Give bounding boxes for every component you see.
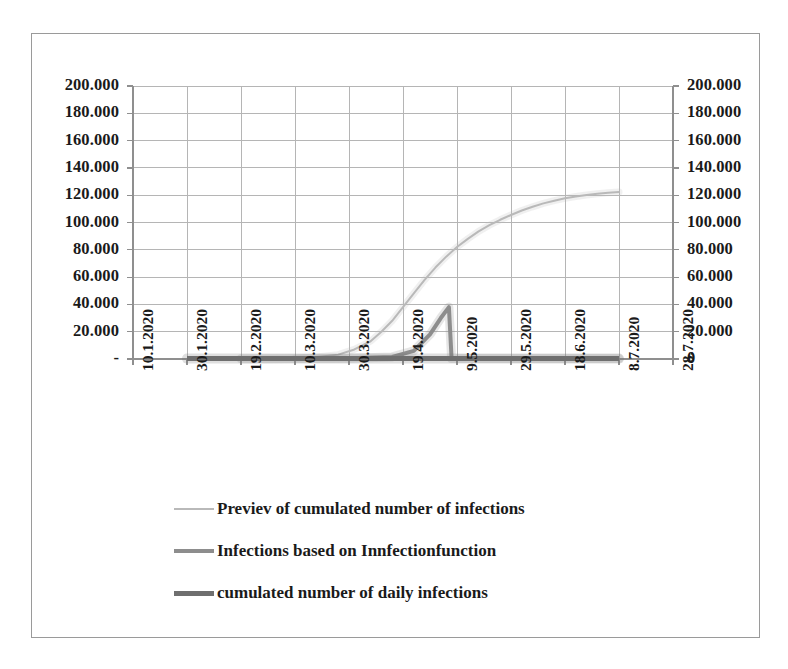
y-axis-left-tick-label: 20.000 <box>27 321 119 341</box>
y-axis-right-tick-label: 60.000 <box>687 266 779 286</box>
plot-area-wrapper: 200.000180.000160.000140.000120.000100.0… <box>32 34 761 639</box>
y-axis-left-tick-label: 140.000 <box>27 157 119 177</box>
y-axis-left-tick-label: 120.000 <box>27 184 119 204</box>
chart-legend: Previev of cumulated number of infection… <box>172 488 642 614</box>
legend-swatch-icon <box>172 549 216 553</box>
legend-item[interactable]: Infections based on Innfectionfunction <box>172 530 642 572</box>
y-axis-right-tick-label: 100.000 <box>687 212 779 232</box>
y-axis-right-tick-label: 20.000 <box>687 321 779 341</box>
legend-item-label: cumulated number of daily infections <box>216 583 488 603</box>
y-axis-left-tick-label: 180.000 <box>27 102 119 122</box>
y-axis-right-tick-label: 120.000 <box>687 184 779 204</box>
series-line-2 <box>241 307 619 359</box>
y-axis-left-tick-label: 100.000 <box>27 212 119 232</box>
legend-swatch-icon <box>172 508 216 510</box>
y-axis-left-tick-label: 80.000 <box>27 239 119 259</box>
legend-item-label: Previev of cumulated number of infection… <box>216 499 525 519</box>
y-axis-right-tick-label: 180.000 <box>687 102 779 122</box>
y-axis-right-tick-label: 40.000 <box>687 293 779 313</box>
legend-swatch-icon <box>172 591 216 596</box>
y-axis-left-tick-label: - <box>27 348 119 368</box>
y-axis-left-tick-label: 60.000 <box>27 266 119 286</box>
x-axis-tick-label: 9.5.2020 <box>463 317 481 371</box>
legend-item-label: Infections based on Innfectionfunction <box>216 541 496 561</box>
x-axis-tick-label: 28.7.2020 <box>679 309 697 371</box>
y-axis-right-tick-label: 160.000 <box>687 130 779 150</box>
x-axis-tick-label: 10.1.2020 <box>139 309 157 371</box>
x-axis-tick-label: 30.3.2020 <box>355 309 373 371</box>
legend-item[interactable]: Previev of cumulated number of infection… <box>172 488 642 530</box>
gridlines <box>133 86 673 359</box>
y-axis-left-tick-label: 160.000 <box>27 130 119 150</box>
y-axis-right-tick-label: 0 <box>687 348 779 368</box>
y-axis-left-tick-label: 40.000 <box>27 293 119 313</box>
x-axis-tick-label: 8.7.2020 <box>625 317 643 371</box>
y-axis-right-tick-label: 140.000 <box>687 157 779 177</box>
x-axis-tick-label: 18.6.2020 <box>571 309 589 371</box>
x-axis-tick-label: 30.1.2020 <box>193 309 211 371</box>
y-axis-right-tick-label: 200.000 <box>687 75 779 95</box>
x-axis-tick-label: 10.3.2020 <box>301 309 319 371</box>
x-axis-tick-label: 19.4.2020 <box>409 309 427 371</box>
y-axis-left-tick-label: 200.000 <box>27 75 119 95</box>
y-axis-right-tick-label: 80.000 <box>687 239 779 259</box>
x-axis-tick-label: 19.2.2020 <box>247 309 265 371</box>
legend-item[interactable]: cumulated number of daily infections <box>172 572 642 614</box>
x-axis-tick-label: 29.5.2020 <box>517 309 535 371</box>
chart-container: 200.000180.000160.000140.000120.000100.0… <box>31 33 760 638</box>
